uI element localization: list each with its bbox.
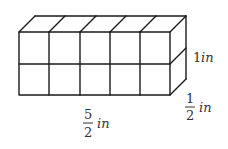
depth-numerator: 1	[186, 91, 194, 106]
length-numerator: 5	[84, 107, 92, 122]
length-unit: in	[97, 116, 110, 131]
prism-diagram: 1 in 1 2 in 5 2 in	[0, 0, 228, 149]
depth-unit: in	[199, 100, 212, 115]
right-face	[170, 16, 186, 95]
top-face	[19, 16, 186, 32]
depth-denominator: 2	[186, 108, 194, 123]
height-unit: in	[201, 50, 214, 65]
length-denominator: 2	[84, 125, 92, 140]
length-label: 5 2 in	[83, 107, 110, 140]
height-label: 1 in	[193, 50, 214, 65]
depth-label: 1 2 in	[185, 91, 212, 123]
